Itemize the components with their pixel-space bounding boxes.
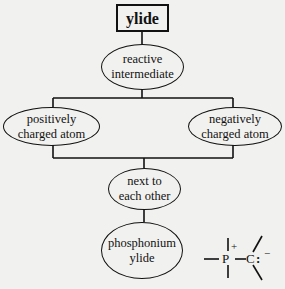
next-to-each-other-node: next to each other — [108, 168, 181, 210]
positively-charged-atom-node: positively charged atom — [3, 107, 100, 146]
carbon-atom: C — [246, 251, 255, 267]
node-text: each other — [119, 189, 171, 204]
ylide-box: ylide — [116, 4, 169, 32]
phosphonium-ylide-node: phosphonium ylide — [101, 222, 183, 279]
negative-charge: − — [264, 247, 270, 259]
reactive-intermediate-node: reactive intermediate — [101, 44, 184, 90]
positive-charge: + — [231, 240, 237, 252]
node-text: charged atom — [201, 127, 268, 142]
node-text: positively — [27, 112, 76, 127]
phosphorus-atom: P — [222, 251, 229, 267]
node-text: phosphonium — [108, 236, 176, 251]
node-text: reactive — [123, 52, 163, 67]
negatively-charged-atom-node: negatively charged atom — [188, 107, 282, 146]
node-text: negatively — [209, 112, 261, 127]
node-text: charged atom — [18, 127, 85, 142]
node-text: ylide — [130, 251, 155, 266]
node-text: intermediate — [111, 67, 173, 82]
ylide-label: ylide — [126, 11, 159, 26]
node-text: next to — [127, 174, 161, 189]
lone-pair: : — [256, 251, 260, 267]
